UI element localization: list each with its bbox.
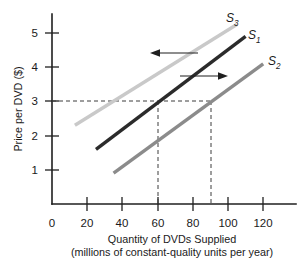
curve-label-s1-sub: 1 — [256, 36, 261, 45]
curve-label-s2-sub: 2 — [275, 62, 281, 71]
x-axis-tick-labels: 0 20 40 60 80 100 120 — [49, 217, 273, 229]
x-tick-label-60: 60 — [152, 217, 165, 229]
x-tick-label-100: 100 — [218, 217, 237, 229]
x-tick-label-20: 20 — [81, 217, 94, 229]
curve-label-s3-base: S — [226, 11, 234, 25]
y-axis-tick-labels: 5 4 3 2 1 — [32, 27, 39, 176]
y-tick-label-5: 5 — [32, 27, 38, 39]
supply-curves-group — [75, 25, 263, 174]
curve-label-s1: S 1 — [248, 28, 261, 45]
reference-lines-group — [52, 101, 211, 204]
x-tick-label-0: 0 — [49, 217, 55, 229]
y-tick-label-1: 1 — [32, 164, 38, 176]
curve-label-s3-sub: 3 — [234, 19, 239, 28]
curve-label-s2-base: S — [268, 54, 276, 68]
x-axis-title: Quantity of DVDs Supplied — [108, 233, 236, 245]
rightward-shift-arrow-head — [218, 72, 228, 80]
leftward-shift-arrow — [150, 49, 198, 57]
curve-label-s2: S 2 — [268, 54, 281, 71]
x-tick-label-40: 40 — [116, 217, 129, 229]
supply-shift-chart: 5 4 3 2 1 0 20 40 60 80 100 120 — [0, 0, 308, 262]
y-tick-label-3: 3 — [32, 95, 38, 107]
curve-label-s1-base: S — [248, 28, 256, 42]
y-tick-label-2: 2 — [32, 130, 38, 142]
leftward-shift-arrow-head — [150, 49, 160, 57]
supply-curve-figure: 5 4 3 2 1 0 20 40 60 80 100 120 — [0, 0, 308, 262]
x-axis-subtitle: (millions of constant-quality units per … — [71, 246, 273, 258]
x-tick-label-80: 80 — [187, 217, 200, 229]
supply-curve-s3 — [75, 25, 237, 126]
y-tick-label-4: 4 — [32, 61, 39, 73]
y-axis-title: Price per DVD ($) — [12, 66, 24, 151]
x-tick-label-120: 120 — [253, 217, 272, 229]
